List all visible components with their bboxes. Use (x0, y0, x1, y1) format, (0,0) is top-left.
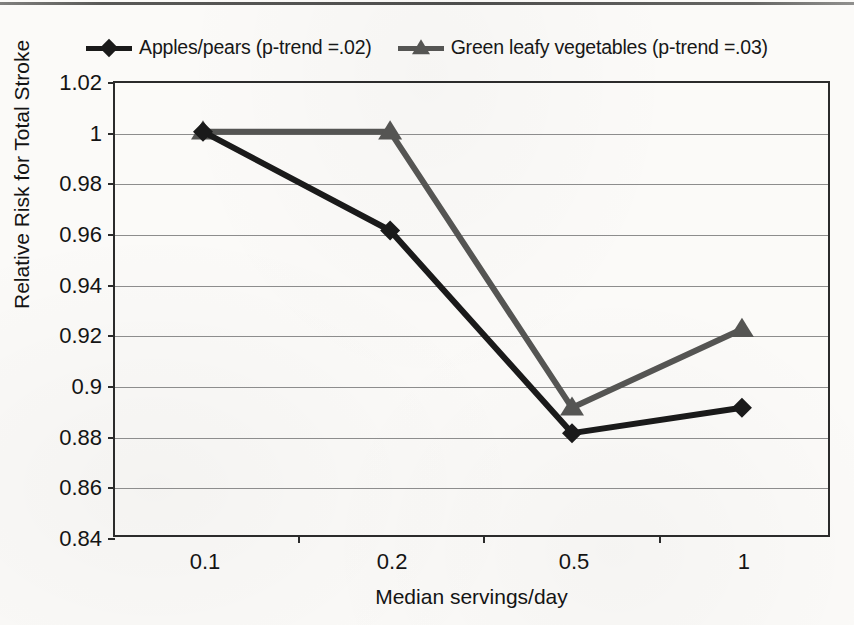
y-axis-tick-label: 0.9 (71, 374, 102, 400)
x-axis-title: Median servings/day (113, 585, 830, 609)
chart-legend: Apples/pears (p-trend =.02) Green leafy … (0, 36, 854, 59)
y-axis-tick-label: 0.92 (59, 323, 102, 349)
series-overlay (113, 81, 830, 537)
y-axis-tick-label: 1.02 (59, 70, 102, 96)
x-axis-tick-label: 0.1 (190, 549, 221, 575)
y-axis-tick (108, 538, 115, 540)
y-axis-tick-label: 0.94 (59, 273, 102, 299)
legend-key-green-leafy-vegetables (398, 39, 444, 57)
y-axis-tick-label: 0.88 (59, 425, 102, 451)
x-axis-tick-label: 1 (738, 549, 750, 575)
legend-entry-apples-pears[interactable]: Apples/pears (p-trend =.02) (86, 36, 372, 59)
legend-label-apples-pears: Apples/pears (p-trend =.02) (139, 36, 372, 59)
diamond-marker-icon (100, 38, 118, 56)
y-axis-tick-label: 0.84 (59, 526, 102, 552)
chart-page: Apples/pears (p-trend =.02) Green leafy … (0, 0, 854, 625)
y-axis-tick-label: 1 (90, 121, 102, 147)
y-axis-tick-label: 0.96 (59, 222, 102, 248)
y-axis-title: Relative Risk for Total Stroke (10, 40, 34, 309)
y-axis-tick-label: 0.98 (59, 171, 102, 197)
series-line (203, 132, 742, 433)
legend-label-green-leafy-vegetables: Green leafy vegetables (p-trend =.03) (451, 36, 768, 59)
y-axis-tick-label: 0.86 (59, 475, 102, 501)
triangle-marker-icon (412, 39, 430, 54)
scan-page-edge-line (0, 2, 854, 5)
x-axis-tick-label: 0.2 (377, 549, 408, 575)
legend-key-apples-pears (86, 39, 132, 57)
x-axis-tick-label: 0.5 (559, 549, 590, 575)
diamond-marker-icon (732, 398, 752, 418)
legend-entry-green-leafy-vegetables[interactable]: Green leafy vegetables (p-trend =.03) (398, 36, 768, 59)
triangle-marker-icon (730, 318, 754, 337)
